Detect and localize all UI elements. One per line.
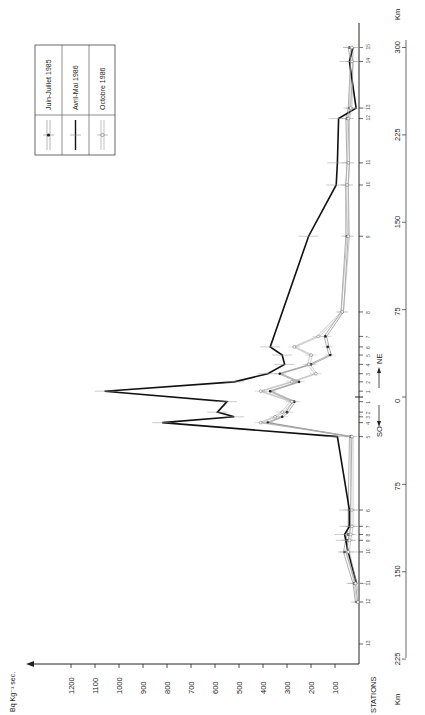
value-tick-label: 1100	[91, 678, 100, 694]
value-tick-label: 200	[307, 681, 316, 694]
km-tick-label: 75	[393, 482, 402, 490]
series-layer	[95, 46, 367, 603]
station-label: 12	[365, 598, 371, 604]
station-label: 6	[365, 346, 371, 349]
station-label: 8	[365, 311, 371, 314]
km-axis-title-bottom: Km	[393, 694, 402, 705]
arrow-down-icon	[377, 421, 381, 427]
station-label: 9	[365, 539, 371, 542]
station-label: 7	[365, 335, 371, 338]
station-label: 13	[365, 640, 371, 646]
series-juin-juillet-1985	[262, 46, 363, 603]
station-label: 8	[365, 533, 371, 536]
legend-label-avril-mai-1986: Avril-Mai 1986	[72, 65, 79, 110]
km-tick-label: 0	[393, 399, 402, 403]
km-tick-label: 75	[393, 307, 402, 315]
direction-so: SO	[375, 426, 384, 437]
station-label: 3	[365, 373, 371, 376]
value-axis-arrow-icon	[26, 661, 34, 667]
station-label: 13	[365, 104, 371, 110]
station-label: 10	[365, 548, 371, 554]
value-ticks: 100200300400500600700800900100011001200	[67, 664, 340, 694]
station-label: 1	[365, 390, 371, 393]
km-axis-title-top: Km	[393, 9, 402, 20]
chart: 100200300400500600700800900100011001200 …	[0, 0, 425, 715]
station-label: 7	[365, 525, 371, 528]
station-label: 15	[365, 44, 371, 50]
station-label: 4	[365, 422, 371, 425]
station-label: 5	[365, 354, 371, 357]
stations-axis-title: STATIONS	[369, 677, 378, 713]
value-tick-label: 100	[331, 681, 340, 694]
chart-svg: 100200300400500600700800900100011001200 …	[0, 0, 425, 715]
station-label: 11	[365, 159, 371, 164]
station-ticks: 13121110987654321123456789101112131415	[355, 44, 371, 646]
station-label: 10	[365, 181, 371, 187]
legend: Juin-Juillet 1985 Avril-Mai 1986 Octobre…	[35, 45, 115, 155]
station-label: 9	[365, 235, 371, 238]
arrow-up-icon	[377, 367, 381, 373]
station-label: 6	[365, 509, 371, 512]
value-tick-label: 300	[283, 681, 292, 694]
station-label: 2	[365, 381, 371, 384]
direction-ne: NE	[375, 354, 384, 364]
station-label: 5	[365, 436, 371, 439]
station-label: 11	[365, 580, 371, 585]
station-label: 4	[365, 363, 371, 366]
series-avril-mai-1986	[95, 48, 367, 584]
km-tick-label: 300	[393, 41, 402, 54]
legend-label-octobre-1986: Octobre 1986	[99, 67, 106, 110]
legend-label-juin-juillet-1985: Juin-Juillet 1985	[45, 59, 52, 110]
station-label: 14	[365, 58, 371, 64]
km-tick-label: 225	[393, 128, 402, 141]
value-axis-title: Bq Kg⁻¹ sec.	[9, 672, 17, 712]
km-tick-label: 150	[393, 216, 402, 229]
value-tick-label: 600	[211, 681, 220, 694]
km-ticks: 22515075075150225300	[393, 41, 406, 665]
value-tick-label: 800	[163, 681, 172, 694]
station-label: 3	[365, 416, 371, 419]
value-tick-label: 1200	[67, 677, 76, 694]
value-tick-label: 500	[235, 681, 244, 694]
value-tick-label: 900	[139, 681, 148, 694]
km-tick-label: 225	[393, 653, 402, 666]
value-tick-label: 400	[259, 681, 268, 694]
value-tick-label: 1000	[115, 677, 124, 694]
km-tick-label: 150	[393, 565, 402, 578]
direction-indicator: SO NE	[375, 354, 384, 437]
value-tick-label: 700	[187, 681, 196, 694]
series-octobre-1986	[255, 46, 364, 603]
station-label: 1	[365, 401, 371, 404]
station-label: 12	[365, 115, 371, 121]
station-label: 2	[365, 411, 371, 414]
